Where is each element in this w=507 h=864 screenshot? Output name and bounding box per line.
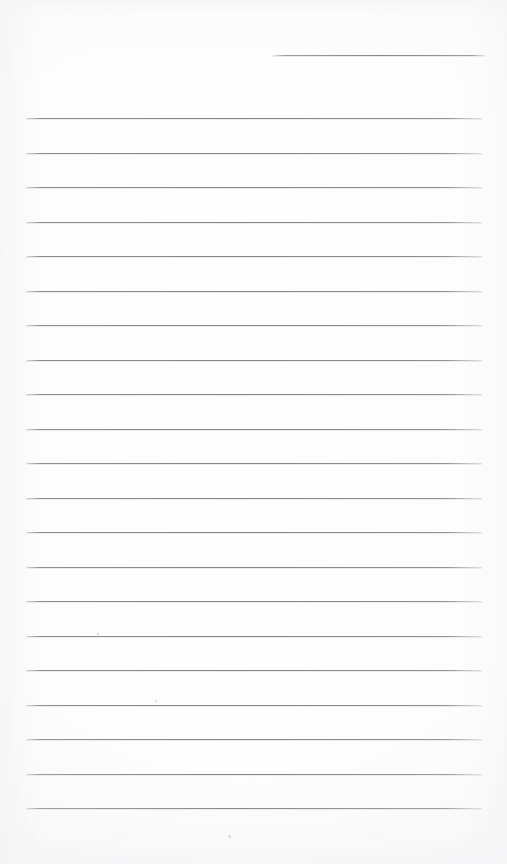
rule-line [26,774,482,775]
paper-speck [228,835,231,838]
rule-line [26,118,482,119]
paper-speck [155,700,157,702]
rule-line [26,670,482,671]
rule-line [26,429,482,430]
rule-line [26,463,482,464]
rule-line [26,153,482,154]
rule-line [26,567,482,568]
rule-line [26,222,482,223]
rule-line [26,291,482,292]
notebook-page [0,0,507,864]
rule-line [26,187,482,188]
rule-line [26,739,482,740]
rule-line [26,325,482,326]
rule-line [26,636,482,637]
rule-line [26,394,482,395]
paper-surface [0,0,507,864]
rule-line [26,808,482,809]
paper-speck [97,633,99,635]
header-rule-line [272,55,485,56]
rule-line [26,601,482,602]
rule-line [26,360,482,361]
rule-line [26,532,482,533]
rule-line [26,705,482,706]
rule-line [26,498,482,499]
rule-line [26,256,482,257]
